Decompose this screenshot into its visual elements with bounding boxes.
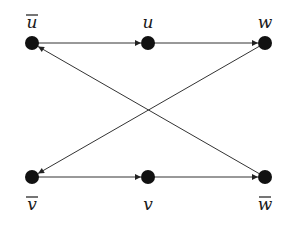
node-ubar bbox=[25, 36, 39, 50]
node-label-u: u bbox=[143, 12, 154, 32]
node-wbar bbox=[258, 170, 272, 184]
edges bbox=[38, 43, 260, 177]
node-label-w: w bbox=[258, 12, 273, 32]
node-v bbox=[141, 170, 155, 184]
graph-canvas: uuwvvw bbox=[0, 0, 289, 226]
node-u bbox=[141, 36, 155, 50]
node-vbar bbox=[25, 170, 39, 184]
node-w bbox=[258, 36, 272, 50]
node-label-v: v bbox=[143, 194, 153, 214]
